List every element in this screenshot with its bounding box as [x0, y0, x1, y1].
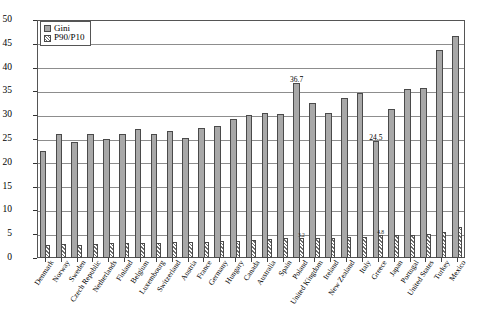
bar-group — [164, 20, 180, 258]
bar-gini — [341, 98, 348, 258]
bar-gini — [87, 134, 94, 258]
bar-p90p10 — [267, 239, 272, 258]
bar-p90p10 — [156, 243, 161, 258]
bar-group — [100, 20, 116, 258]
bar-group — [85, 20, 101, 258]
bar-p90p10 — [362, 237, 367, 258]
bar-group — [449, 20, 465, 258]
legend-swatch-p90p10 — [44, 35, 51, 42]
bar-group — [196, 20, 212, 258]
bar-group — [402, 20, 418, 258]
y-axis-tick-label: 40 — [0, 63, 12, 73]
bar-p90p10 — [93, 244, 98, 258]
y-axis-tick-mark — [33, 91, 37, 92]
bar-group — [354, 20, 370, 258]
bar-p90p10 — [77, 245, 82, 258]
x-axis-tick-label: Greece — [370, 259, 388, 281]
bar-p90p10 — [188, 242, 193, 258]
bar-value-label: 3.2 — [298, 233, 305, 239]
bar-gini — [325, 113, 332, 258]
bar-p90p10 — [442, 232, 447, 258]
y-axis-tick-mark — [33, 187, 37, 188]
y-axis-tick-mark — [33, 139, 37, 140]
bar-gini — [119, 134, 126, 258]
y-axis-tick-label: 0 — [0, 253, 12, 263]
bar-group — [417, 20, 433, 258]
bar-group — [386, 20, 402, 258]
bar-group — [306, 20, 322, 258]
bar-gini — [230, 119, 237, 258]
bar-group — [433, 20, 449, 258]
bar-p90p10 — [140, 243, 145, 258]
bar-gini — [135, 129, 142, 258]
chart-legend: Gini P90/P10 — [40, 21, 91, 46]
bar-group — [338, 20, 354, 258]
bar-p90p10 — [220, 241, 225, 258]
bar-p90p10 — [331, 238, 336, 258]
bar-gini — [277, 114, 284, 258]
y-axis-tick-label: 25 — [0, 134, 12, 144]
legend-item-p90p10: P90/P10 — [44, 33, 85, 42]
bar-gini — [420, 88, 427, 258]
bar-group — [322, 20, 338, 258]
y-axis-tick-mark — [33, 68, 37, 69]
bar-group — [116, 20, 132, 258]
y-axis-tick-mark — [33, 20, 37, 21]
bar-p90p10 — [204, 242, 209, 258]
y-axis-tick-label: 15 — [0, 182, 12, 192]
y-axis-tick-label: 35 — [0, 86, 12, 96]
bar-p90p10 — [236, 241, 241, 258]
bar-p90p10 — [45, 245, 50, 258]
bar-group — [180, 20, 196, 258]
bar-p90p10 — [410, 235, 415, 258]
bar-p90p10 — [394, 235, 399, 258]
x-axis: DenmarkNorwaySwedenCzech RepublicNetherl… — [37, 259, 465, 328]
bar-p90p10 — [315, 238, 320, 258]
bar-gini — [182, 138, 189, 258]
bar-group — [243, 20, 259, 258]
bar-group: 24.54.8 — [370, 20, 386, 258]
y-axis-tick-label: 5 — [0, 229, 12, 239]
bar-gini — [198, 128, 205, 258]
bar-group — [53, 20, 69, 258]
y-axis-tick-label: 20 — [0, 158, 12, 168]
bar-gini — [452, 36, 459, 258]
bar-p90p10 — [172, 242, 177, 258]
bar-p90p10 — [458, 227, 463, 258]
bar-gini — [167, 131, 174, 258]
y-axis-tick-label: 50 — [0, 15, 12, 25]
legend-swatch-gini — [44, 25, 51, 32]
bar-gini — [103, 139, 110, 258]
y-axis-tick-mark — [33, 258, 37, 259]
bar-gini — [404, 89, 411, 258]
bar-p90p10 — [426, 234, 431, 258]
bar-gini — [246, 115, 253, 258]
bar-p90p10 — [125, 243, 130, 258]
y-axis-tick-label: 45 — [0, 39, 12, 49]
bar-group — [227, 20, 243, 258]
legend-label-p90p10: P90/P10 — [54, 33, 85, 42]
bar-group — [148, 20, 164, 258]
y-axis-tick-mark — [33, 234, 37, 235]
bar-p90p10 — [347, 237, 352, 258]
bar-gini — [56, 134, 63, 258]
bar-gini — [357, 93, 364, 258]
bar-group — [37, 20, 53, 258]
bar-gini — [214, 126, 221, 258]
bar-p90p10 — [109, 243, 114, 258]
bar-chart: Gini P90/P10 36.73.224.54.8 DenmarkNorwa… — [0, 0, 480, 328]
bar-gini — [151, 134, 158, 258]
bar-gini — [40, 151, 47, 258]
bar-p90p10 — [61, 244, 66, 258]
y-axis-tick-mark — [33, 115, 37, 116]
bar-group — [69, 20, 85, 258]
bar-p90p10 — [283, 238, 288, 258]
bar-value-label: 4.8 — [377, 230, 384, 236]
bar-value-label: 24.5 — [369, 134, 382, 142]
bar-p90p10 — [251, 240, 256, 258]
y-axis-tick-label: 30 — [0, 110, 12, 120]
bar-gini — [71, 142, 78, 258]
bar-group — [259, 20, 275, 258]
x-axis-tick-label: Denmark — [33, 259, 55, 287]
bar-gini — [436, 50, 443, 258]
